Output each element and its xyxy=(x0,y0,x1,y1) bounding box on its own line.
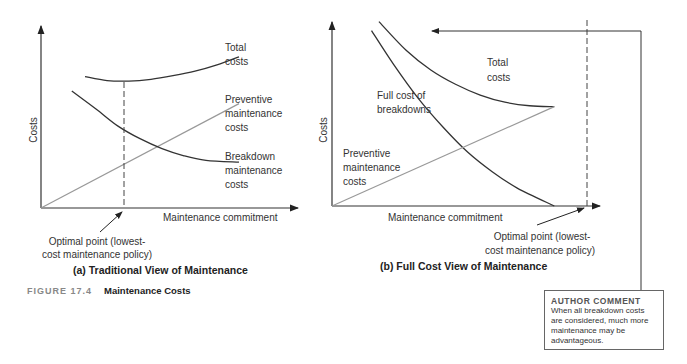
chart-b-ylabel: Costs xyxy=(318,117,329,143)
author-comment-text: When all breakdown costs are considered,… xyxy=(551,306,657,346)
chart-b-label-total-1: Total xyxy=(487,57,508,68)
chart-a-xlabel: Maintenance commitment xyxy=(163,212,278,223)
chart-b: Costs Maintenance commitment Optimal poi… xyxy=(318,20,641,290)
chart-b-xlabel: Maintenance commitment xyxy=(388,212,503,223)
chart-a-label-prev-1: Preventive xyxy=(225,94,273,105)
chart-b-label-prev-1: Preventive xyxy=(343,148,391,159)
chart-a-label-prev-3: costs xyxy=(225,122,248,133)
author-comment-box: AUTHOR COMMENT When all breakdown costs … xyxy=(544,290,664,350)
chart-a-series-total-costs xyxy=(85,57,239,81)
chart-a-label-break-3: costs xyxy=(225,179,248,190)
chart-a-optimal-label-2: cost maintenance policy) xyxy=(42,249,152,260)
chart-a-ylabel: Costs xyxy=(28,117,39,143)
chart-b-label-prev-2: maintenance xyxy=(343,162,401,173)
chart-a: Costs Maintenance commitment Optimal poi… xyxy=(28,26,298,276)
chart-a-label-break-2: maintenance xyxy=(225,165,283,176)
figure-number: FIGURE 17.4 xyxy=(27,286,92,296)
chart-b-label-full-1: Full cost of xyxy=(377,90,426,101)
chart-a-optimal-pointer xyxy=(100,212,122,232)
chart-a-label-total-1: Total xyxy=(225,42,246,53)
chart-b-optimal-label-1: Optimal point (lowest- xyxy=(494,231,591,242)
chart-b-title: (b) Full Cost View of Maintenance xyxy=(380,260,547,272)
chart-a-label-total-2: costs xyxy=(225,56,248,67)
chart-a-label-break-1: Breakdown xyxy=(225,151,275,162)
chart-a-optimal-label-1: Optimal point (lowest- xyxy=(49,236,146,247)
chart-b-optimal-pointer xyxy=(537,208,584,225)
chart-b-label-full-2: breakdowns xyxy=(377,104,431,115)
chart-a-title: (a) Traditional View of Maintenance xyxy=(73,264,248,276)
chart-a-series-breakdown-maintenance-costs xyxy=(72,91,239,162)
chart-b-label-prev-3: costs xyxy=(343,176,366,187)
figure-title: Maintenance Costs xyxy=(104,285,191,296)
chart-a-label-prev-2: maintenance xyxy=(225,108,283,119)
chart-b-label-total-2: costs xyxy=(487,72,510,83)
chart-b-optimal-label-2: cost maintenance policy) xyxy=(485,245,595,256)
chart-a-series-preventive-maintenance-costs xyxy=(41,104,239,208)
author-comment-title: AUTHOR COMMENT xyxy=(551,296,657,306)
